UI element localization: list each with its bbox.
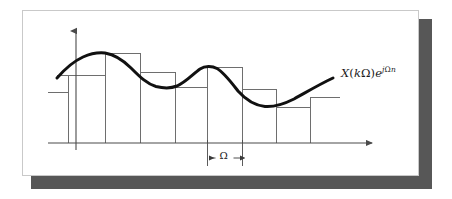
interval-omega-label: Ω [220,150,228,161]
curve-label: X(kΩ)ejΩn [341,66,396,80]
curve-label-exponent: jΩn [382,65,396,74]
curve-label-exponent-n: n [391,65,396,74]
curve-label-omega: Ω [361,66,371,80]
curve-label-k: k [354,66,361,80]
figure-root: X(kΩ)ejΩn Ω [0,0,452,199]
